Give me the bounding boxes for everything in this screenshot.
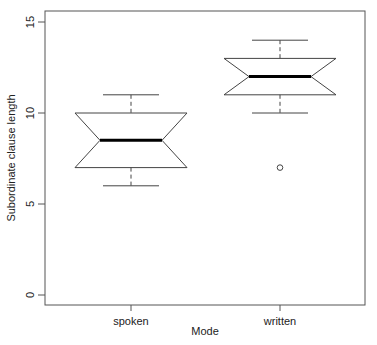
box-spoken bbox=[75, 95, 187, 186]
y-tick-label: 0 bbox=[24, 292, 36, 298]
x-tick-label: written bbox=[263, 315, 296, 327]
boxplot-chart: 051015 spokenwritten Subordinate clause … bbox=[0, 0, 377, 345]
x-axis: spokenwritten bbox=[113, 305, 296, 327]
boxes bbox=[75, 40, 336, 186]
x-tick-label: spoken bbox=[113, 315, 148, 327]
y-axis: 051015 bbox=[24, 16, 45, 298]
y-tick-label: 10 bbox=[24, 107, 36, 119]
y-axis-label: Subordinate clause length bbox=[5, 94, 17, 221]
plot-frame bbox=[45, 11, 365, 305]
y-tick-label: 15 bbox=[24, 16, 36, 28]
x-axis-label: Mode bbox=[191, 325, 219, 337]
box-written bbox=[224, 40, 336, 170]
outlier-point bbox=[277, 165, 283, 171]
y-tick-label: 5 bbox=[24, 201, 36, 207]
